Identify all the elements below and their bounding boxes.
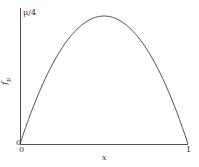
y-tick-top-label: μ/4 <box>23 9 36 17</box>
y-axis-label-sub: μ <box>4 78 11 82</box>
x-tick-zero-label: 0 <box>19 146 24 154</box>
x-axis-label: x <box>102 154 107 162</box>
chart-canvas <box>0 0 199 167</box>
y-axis-label: fμ <box>0 78 11 85</box>
x-tick-one-label: 1 <box>186 146 191 154</box>
y-axis-label-main: f <box>0 82 9 85</box>
parabola-curve <box>20 16 188 144</box>
